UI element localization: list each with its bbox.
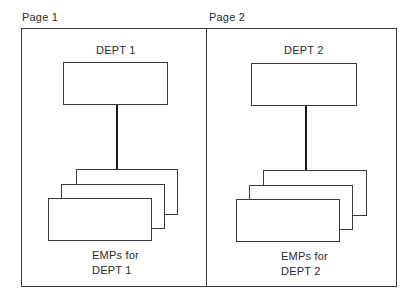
- dept-1-connector: [116, 105, 118, 169]
- dept-1-box: [63, 62, 168, 105]
- page-2-label: Page 2: [209, 11, 245, 24]
- emps-dept-2-label-line2: DEPT 2: [281, 265, 321, 278]
- emp-1-record-front: [48, 198, 152, 241]
- emps-dept-1-label-line2: DEPT 1: [92, 264, 132, 277]
- dept-2-label: DEPT 2: [284, 44, 324, 57]
- page-divider: [206, 28, 207, 287]
- dept-1-label: DEPT 1: [96, 44, 136, 57]
- dept-2-connector: [305, 106, 307, 170]
- emps-dept-2-label-line1: EMPs for: [281, 250, 328, 263]
- emps-dept-1-label-line1: EMPs for: [92, 249, 139, 262]
- emp-2-record-front: [236, 199, 340, 242]
- page-1-label: Page 1: [22, 11, 58, 24]
- dept-2-box: [251, 63, 357, 106]
